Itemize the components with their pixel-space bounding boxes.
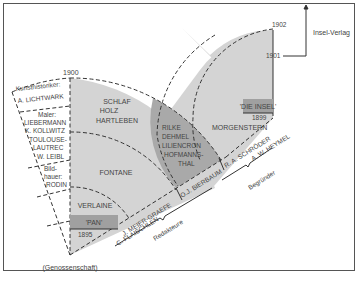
year-1895: 1895: [78, 231, 93, 238]
author-liliencron: LILIENCRON: [162, 142, 201, 149]
literary-circles-diagram: 1900 1895 1899 1901 1902 Insel-Verlag 'P…: [0, 0, 360, 286]
coop-name-lautrec: LAUTREC: [33, 144, 64, 151]
coop-title-art-historian: Kunsthistoriker:: [15, 80, 60, 92]
coop-name-rodin: RODIN: [46, 181, 67, 188]
author-dehmel: DEHMEL: [162, 133, 189, 140]
coop-title-sculptor-2: hauer:: [44, 173, 63, 180]
arrow-head-icon: [304, 5, 308, 9]
author-holz: HOLZ: [100, 107, 119, 114]
year-1899: 1899: [252, 114, 267, 121]
pan-title: 'PAN': [86, 219, 103, 226]
author-hofmannsthal-2: THAL: [178, 160, 195, 167]
insel-title: 'DIE INSEL': [240, 103, 277, 110]
year-1901: 1901: [266, 52, 281, 59]
insel-verlag-connector: [283, 6, 306, 56]
author-hofmannsthal-1: HOFMANNS-: [164, 151, 203, 158]
coop-title-painter: Maler:: [38, 111, 56, 118]
author-morgenstern: MORGENSTERN: [212, 124, 267, 131]
coop-name-toulouse: TOULOUSE-: [29, 136, 67, 143]
author-fontane: FONTANE: [100, 169, 133, 176]
author-rilke: RILKE: [162, 124, 181, 131]
year-1900: 1900: [63, 69, 79, 76]
coop-name-liebermann: LIEBERMANN: [24, 119, 67, 126]
coop-name-kollwitz: K. KOLLWITZ: [25, 127, 65, 134]
coop-title-sculptor-1: Bild-: [44, 165, 57, 172]
coop-divider-3: [37, 189, 70, 197]
cooperative-label: (Genossenschaft): [42, 264, 97, 272]
coop-name-leibl: W. LEIBL: [37, 153, 64, 160]
author-verlaine: VERLAINE: [78, 202, 113, 209]
cropped-caption-line: ​: [2, 280, 358, 286]
coop-name-lichtwark: A. LICHTWARK: [17, 92, 64, 104]
author-hartleben: HARTLEBEN: [96, 117, 138, 124]
author-schlaf: SCHLAF: [103, 98, 131, 105]
year-1902: 1902: [272, 21, 287, 28]
founders-label: Begründer: [247, 168, 278, 191]
insel-verlag-label: Insel-Verlag: [313, 29, 350, 37]
